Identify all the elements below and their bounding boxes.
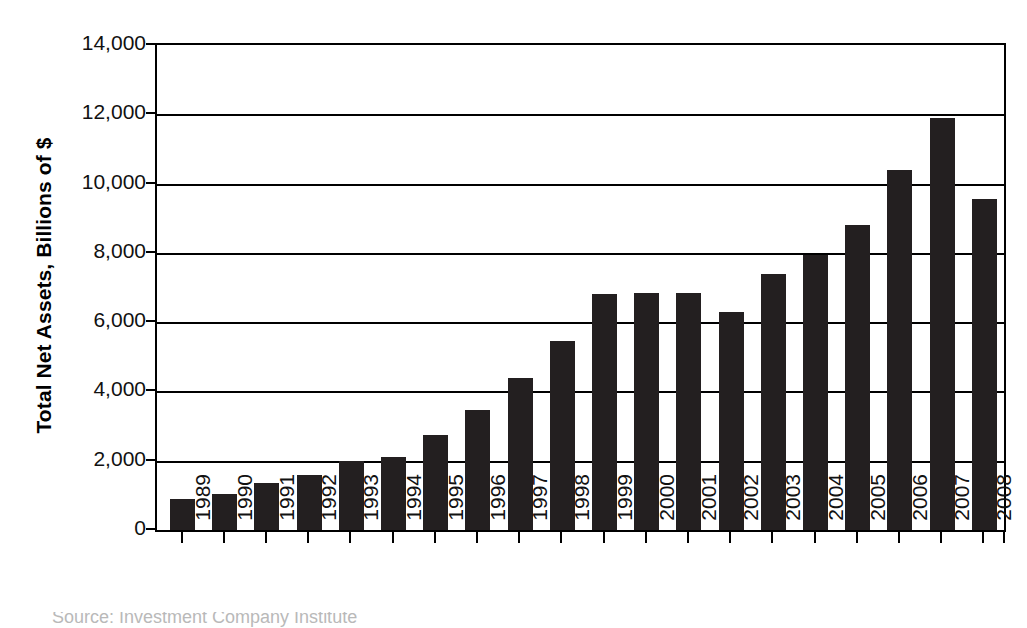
x-axis-tick-label: 1994 [403, 474, 425, 548]
x-axis-tick-label: 2002 [740, 474, 762, 548]
x-axis-tick-mark [1003, 530, 1005, 543]
x-axis-tick-label: 1996 [487, 474, 509, 548]
y-axis-tick-label: 2,000 [58, 447, 146, 471]
y-axis-tick-mark [146, 320, 155, 322]
x-axis-tick-label: 1995 [445, 474, 467, 548]
source-caption-clipped: Source: Investment Company Institute [0, 612, 1027, 628]
x-axis-tick-label: 1989 [192, 474, 214, 548]
x-axis-tick-mark [603, 530, 605, 543]
x-axis-tick-mark [392, 530, 394, 543]
x-axis-tick-label: 1990 [234, 474, 256, 548]
x-axis-tick-mark [729, 530, 731, 543]
x-axis-tick-mark [181, 530, 183, 543]
bar [930, 118, 955, 530]
x-axis-tick-mark [898, 530, 900, 543]
x-axis-tick-mark [349, 530, 351, 543]
x-axis-tick-mark [307, 530, 309, 543]
y-axis-tick-mark [146, 43, 155, 45]
x-axis-tick-label: 1997 [529, 474, 551, 548]
y-axis-tick-label: 0 [58, 516, 146, 540]
y-axis-tick-mark [146, 389, 155, 391]
x-axis-tick-mark [223, 530, 225, 543]
y-axis-tick-mark [146, 182, 155, 184]
x-axis-tick-mark [856, 530, 858, 543]
x-axis-tick-label: 2001 [698, 474, 720, 548]
x-axis-tick-mark [687, 530, 689, 543]
x-axis-tick-label: 1993 [360, 474, 382, 548]
y-axis-tick-label: 12,000 [58, 100, 146, 124]
x-axis-tick-mark [560, 530, 562, 543]
x-axis-tick-mark [518, 530, 520, 543]
x-axis-tick-mark [814, 530, 816, 543]
x-axis-tick-label: 2000 [656, 474, 678, 548]
x-axis-tick-mark [434, 530, 436, 543]
x-axis-tick-label: 1999 [614, 474, 636, 548]
source-caption-text: Source: Investment Company Institute [52, 612, 357, 628]
x-axis-tick-label: 2003 [782, 474, 804, 548]
x-axis-tick-label: 2006 [909, 474, 931, 548]
x-axis-tick-mark [771, 530, 773, 543]
y-axis-tick-label: 4,000 [58, 377, 146, 401]
y-axis-tick-mark [146, 528, 155, 530]
x-axis-tick-mark [645, 530, 647, 543]
y-axis-tick-label: 8,000 [58, 239, 146, 263]
y-axis-tick-label: 10,000 [58, 170, 146, 194]
x-axis-tick-label: 1998 [571, 474, 593, 548]
x-axis-tick-label: 1991 [276, 474, 298, 548]
x-axis-tick-mark [265, 530, 267, 543]
x-axis-tick-label: 2004 [825, 474, 847, 548]
bar-chart-figure: Total Net Assets, Billions of $ 14,00012… [0, 0, 1027, 628]
x-axis-tick-mark [940, 530, 942, 543]
y-axis-tick-label: 6,000 [58, 308, 146, 332]
x-axis-tick-label: 1992 [318, 474, 340, 548]
x-axis-tick-mark [476, 530, 478, 543]
bar-series [157, 45, 1004, 530]
y-axis-tick-label: 14,000 [58, 31, 146, 55]
x-axis-tick-label: 2007 [951, 474, 973, 548]
y-axis-tick-group: 14,00012,00010,0008,0006,0004,0002,0000 [58, 0, 146, 628]
plot-area [155, 43, 1006, 532]
y-axis-tick-mark [146, 459, 155, 461]
x-axis-tick-label: 2005 [867, 474, 889, 548]
y-axis-tick-mark [146, 251, 155, 253]
x-axis-tick-mark [982, 530, 984, 543]
y-axis-tick-mark [146, 112, 155, 114]
